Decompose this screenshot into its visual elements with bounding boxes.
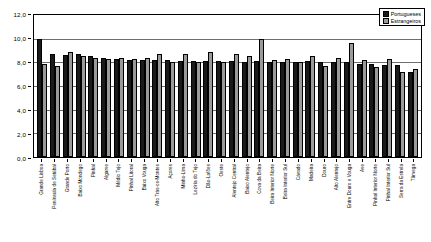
bar-group bbox=[406, 15, 419, 157]
y-tick-mark bbox=[28, 86, 31, 87]
x-tick-label: Pinhal Interior Sul bbox=[385, 164, 390, 201]
x-tick-mark bbox=[195, 159, 196, 162]
bar-estrangeiros bbox=[349, 43, 354, 157]
y-tick-label: 10,0 bbox=[14, 35, 26, 42]
legend-entry: Portugueses bbox=[383, 11, 421, 17]
x-tick-mark bbox=[324, 159, 325, 162]
x-label-slot: Pinhal bbox=[86, 160, 99, 240]
x-label-slot: Serra da Estrela bbox=[394, 160, 407, 240]
x-label-slot: Alto Alentejo bbox=[330, 160, 343, 240]
bar-group bbox=[317, 15, 330, 157]
x-label-slot: Baixo Vouga bbox=[138, 160, 151, 240]
x-tick-mark bbox=[144, 159, 145, 162]
x-label-slot: Lezíria do Tejo bbox=[189, 160, 202, 240]
bar-estrangeiros bbox=[285, 59, 290, 157]
x-tick-mark bbox=[247, 159, 248, 162]
chart-legend: PortuguesesEstrangeiros bbox=[379, 8, 425, 26]
x-tick-label: Grande Porto bbox=[65, 164, 70, 192]
x-tick-label: Madeira bbox=[308, 164, 313, 181]
bar-estrangeiros bbox=[400, 72, 405, 157]
bar-estrangeiros bbox=[157, 54, 162, 157]
legend-label: Estrangeiros bbox=[391, 18, 421, 24]
bar-estrangeiros bbox=[106, 59, 111, 157]
x-tick-label: Tâmega bbox=[411, 164, 416, 181]
x-tick-label: Beira Interior Sul bbox=[283, 164, 288, 199]
x-label-slot: Baixo Mondego bbox=[73, 160, 86, 240]
bar-group bbox=[342, 15, 355, 157]
x-label-slot: Tâmega bbox=[407, 160, 420, 240]
bar-estrangeiros bbox=[145, 58, 150, 157]
x-label-slot: Alentejo Central bbox=[227, 160, 240, 240]
bar-estrangeiros bbox=[68, 52, 73, 157]
x-tick-mark bbox=[272, 159, 273, 162]
bar-group bbox=[304, 15, 317, 157]
bar-estrangeiros bbox=[387, 59, 392, 157]
bar-estrangeiros bbox=[55, 66, 60, 157]
bar-estrangeiros bbox=[247, 56, 252, 157]
x-label-slot: Dão-Lafões bbox=[202, 160, 215, 240]
x-tick-mark bbox=[170, 159, 171, 162]
x-tick-label: Douro bbox=[321, 164, 326, 177]
x-label-slot: Baixo Alentejo bbox=[240, 160, 253, 240]
bar-estrangeiros bbox=[362, 60, 367, 157]
x-tick-label: Alto Alentejo bbox=[334, 164, 339, 190]
x-tick-mark bbox=[67, 159, 68, 162]
x-label-slot: Pinhal Interior Norte bbox=[369, 160, 382, 240]
x-tick-label: Cávado bbox=[295, 164, 300, 180]
bar-group bbox=[189, 15, 202, 157]
bar-group bbox=[240, 15, 253, 157]
legend-swatch-icon bbox=[383, 11, 389, 17]
bar-group bbox=[227, 15, 240, 157]
bar-group bbox=[74, 15, 87, 157]
x-label-slot: Península de Setúbal bbox=[48, 160, 61, 240]
bar-estrangeiros bbox=[336, 58, 341, 157]
x-tick-mark bbox=[413, 159, 414, 162]
x-tick-mark bbox=[157, 159, 158, 162]
bar-group bbox=[49, 15, 62, 157]
bar-group bbox=[87, 15, 100, 157]
y-tick-label: 0,0 bbox=[17, 155, 26, 162]
x-tick-mark bbox=[221, 159, 222, 162]
x-label-slot: Algarve bbox=[99, 160, 112, 240]
x-axis: Grande LisboaPenínsula de SetúbalGrande … bbox=[33, 160, 422, 240]
bar-group bbox=[266, 15, 279, 157]
bar-chart: 12,010,08,06,04,02,00,0 Grande LisboaPen… bbox=[0, 0, 431, 242]
legend-label: Portugueses bbox=[391, 11, 421, 17]
x-tick-mark bbox=[298, 159, 299, 162]
x-label-slot: Minho-Lima bbox=[176, 160, 189, 240]
x-tick-label: Grande Lisboa bbox=[39, 164, 44, 195]
bar-estrangeiros bbox=[132, 59, 137, 157]
x-label-slot: Madeira bbox=[304, 160, 317, 240]
legend-entry: Estrangeiros bbox=[383, 18, 421, 24]
x-tick-label: Minho-Lima bbox=[180, 164, 185, 189]
x-tick-mark bbox=[41, 159, 42, 162]
y-axis: 12,010,08,06,04,02,00,0 bbox=[0, 14, 31, 158]
x-label-slot: Alto Trás-os-Montes bbox=[150, 160, 163, 240]
x-label-slot: Açores bbox=[163, 160, 176, 240]
y-tick-label: 12,0 bbox=[14, 11, 26, 18]
bar-estrangeiros bbox=[323, 66, 328, 157]
x-tick-mark bbox=[234, 159, 235, 162]
bar-group bbox=[164, 15, 177, 157]
x-tick-mark bbox=[118, 159, 119, 162]
y-tick-label: 6,0 bbox=[17, 83, 26, 90]
bar-estrangeiros bbox=[272, 60, 277, 157]
bar-estrangeiros bbox=[310, 56, 315, 157]
bar-group bbox=[176, 15, 189, 157]
bar-group bbox=[330, 15, 343, 157]
bar-group bbox=[291, 15, 304, 157]
x-label-slot: Grande Lisboa bbox=[35, 160, 48, 240]
x-tick-mark bbox=[388, 159, 389, 162]
y-tick-mark bbox=[28, 62, 31, 63]
x-tick-label: Baixo Alentejo bbox=[244, 164, 249, 194]
x-tick-mark bbox=[259, 159, 260, 162]
bar-group bbox=[215, 15, 228, 157]
x-tick-mark bbox=[401, 159, 402, 162]
x-tick-label: Algarve bbox=[103, 164, 108, 180]
y-tick-label: 8,0 bbox=[17, 59, 26, 66]
x-label-slot: Pinhal Litoral bbox=[125, 160, 138, 240]
y-tick-mark bbox=[28, 110, 31, 111]
y-tick-mark bbox=[28, 158, 31, 159]
x-label-slot: Médio Tejo bbox=[112, 160, 125, 240]
bar-estrangeiros bbox=[298, 62, 303, 157]
